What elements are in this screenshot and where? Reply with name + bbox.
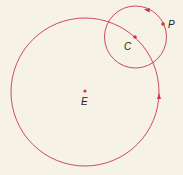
large-orbit-direction-arrow-icon (157, 93, 161, 99)
point-c-dot (133, 35, 137, 39)
label-c: C (124, 41, 132, 52)
point-p-dot (161, 22, 165, 26)
label-p: P (168, 19, 175, 30)
point-e-dot (83, 89, 86, 92)
orbit-diagram: E C P (0, 0, 183, 175)
label-e: E (81, 96, 88, 107)
